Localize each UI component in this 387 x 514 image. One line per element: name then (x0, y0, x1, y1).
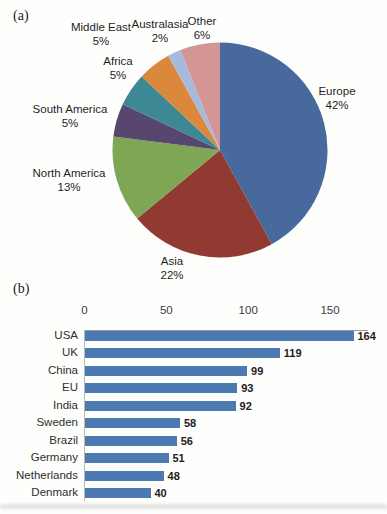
x-axis-tick-50: 50 (160, 304, 173, 316)
bar-value-label-eu: 93 (241, 382, 253, 394)
pie-label-europe: Europe 42% (297, 84, 377, 112)
pie-label-south-america: South America 5% (20, 102, 120, 130)
bar-india (85, 401, 236, 411)
cutoff-caption-smudge (0, 504, 387, 509)
bar-category-label-germany: Germany (0, 451, 78, 465)
bar-brazil (85, 436, 177, 446)
bar-denmark (85, 488, 151, 498)
bar-china (85, 366, 247, 376)
bar-category-label-uk: UK (0, 346, 78, 360)
bar-uk (85, 348, 280, 358)
bar-category-label-india: India (0, 399, 78, 413)
bar-category-label-china: China (0, 364, 78, 378)
bar-value-label-usa: 164 (357, 330, 375, 342)
bar-category-label-netherlands: Netherlands (0, 469, 78, 483)
bar-category-label-eu: EU (0, 381, 78, 395)
x-axis-tick-150: 150 (320, 304, 339, 316)
bar-value-label-netherlands: 48 (168, 470, 180, 482)
pie-label-north-america: North America 13% (19, 166, 119, 194)
panel-b-label: (b) (13, 281, 29, 297)
bar-value-label-brazil: 56 (181, 435, 193, 447)
x-axis-tick-0: 0 (81, 304, 87, 316)
bar-eu (85, 383, 237, 393)
bar-value-label-india: 92 (240, 400, 252, 412)
bar-value-label-sweden: 58 (184, 417, 196, 429)
panel-a-label: (a) (13, 8, 29, 24)
bar-category-label-sweden: Sweden (0, 416, 78, 430)
bar-netherlands (85, 471, 164, 481)
x-axis-tick-100: 100 (239, 304, 258, 316)
figure-page: (a) Europe 42% Asia 22% North America 13… (0, 0, 387, 514)
pie-label-other: Other 6% (171, 14, 233, 42)
bar-chart: 050100150 USA164UK119China99EU93India92S… (0, 300, 387, 510)
bar-value-label-germany: 51 (172, 452, 184, 464)
bar-category-label-brazil: Brazil (0, 434, 78, 448)
bar-germany (85, 453, 169, 463)
bar-value-label-denmark: 40 (154, 487, 166, 499)
bar-value-label-china: 99 (251, 365, 263, 377)
bar-value-label-uk: 119 (284, 347, 302, 359)
bar-category-label-usa: USA (0, 329, 78, 343)
bar-category-label-denmark: Denmark (0, 486, 78, 500)
pie-label-asia: Asia 22% (132, 254, 212, 282)
bar-usa (85, 331, 354, 341)
pie-label-africa: Africa 5% (78, 54, 158, 82)
bar-sweden (85, 418, 180, 428)
